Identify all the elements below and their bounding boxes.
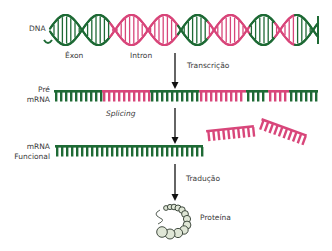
mrna-base <box>116 147 118 157</box>
pre-mrna-base <box>191 92 193 102</box>
pre-mrna-base <box>215 92 217 102</box>
intron1-base <box>207 132 210 142</box>
pre-mrna-base <box>247 92 249 102</box>
mrna-base <box>146 147 148 157</box>
transcription-label: Transcrição <box>187 62 229 70</box>
mrna-base <box>76 147 78 157</box>
intron1-base <box>247 127 250 137</box>
pre-mrna-base <box>171 92 173 102</box>
spliced-intron-2 <box>258 118 307 145</box>
pre-mrna-base <box>186 92 188 102</box>
pre-mrna-base <box>310 92 312 102</box>
mrna-base <box>136 147 138 157</box>
pre-mrna-base <box>196 92 198 102</box>
mrna-base <box>181 147 183 157</box>
pre-mrna-base <box>240 92 242 102</box>
pre-mrna-base <box>230 92 232 102</box>
pre-mrna-base <box>274 92 276 102</box>
gene-expression-diagram <box>0 0 332 251</box>
intron2-base <box>268 124 274 134</box>
pre-mrna-base <box>100 92 102 102</box>
pre-mrna-base <box>75 92 77 102</box>
pre-mrna-base <box>103 92 105 102</box>
pre-mrna-base <box>123 92 125 102</box>
intron2-base <box>301 136 307 146</box>
pre-mrna-base <box>210 92 212 102</box>
intron2-base <box>259 120 265 130</box>
intron1-base <box>237 128 240 138</box>
pre-mrna-base <box>90 92 92 102</box>
pre-mrna-base <box>95 92 97 102</box>
pre-mrna-base <box>143 92 145 102</box>
mrna-base <box>106 147 108 157</box>
pre-mrna-base <box>225 92 227 102</box>
translation-label: Tradução <box>186 175 220 183</box>
pre-mrna-base <box>262 92 264 102</box>
mrna-base <box>126 147 128 157</box>
splicing-label: Splicing <box>106 110 135 118</box>
dna-label: DNA <box>29 25 46 33</box>
exon-label: Éxon <box>65 52 83 60</box>
pre-mrna-base <box>284 92 286 102</box>
intron1-base <box>217 131 220 141</box>
pre-mrna-base <box>85 92 87 102</box>
pre-mrna-base <box>290 92 292 102</box>
mrna-base <box>166 147 168 157</box>
process-arrows <box>172 53 179 201</box>
pre-mrna-base <box>166 92 168 102</box>
mrna-base <box>131 147 133 157</box>
pre-mrna-base <box>305 92 307 102</box>
pre-mrna-base <box>128 92 130 102</box>
mrna-base <box>61 147 63 157</box>
functional-mrna-label-line1: mRNA <box>27 143 50 151</box>
mrna-base <box>191 147 193 157</box>
intron1-base <box>242 128 245 138</box>
mrna-base <box>66 147 68 157</box>
mrna-base <box>161 147 163 157</box>
pre-mrna-base <box>295 92 297 102</box>
pre-mrna-base <box>200 92 202 102</box>
intron1-base <box>222 130 225 140</box>
protein-tail <box>156 210 163 224</box>
mrna-base <box>81 147 83 157</box>
pre-mrna-base <box>156 92 158 102</box>
intron1-base <box>212 131 215 141</box>
pre-mrna-base <box>60 92 62 102</box>
pre-mrna-base <box>220 92 222 102</box>
mrna-base <box>71 147 73 157</box>
mrna-base <box>186 147 188 157</box>
pre-mrna-base <box>257 92 259 102</box>
intron1-base <box>232 129 235 139</box>
mrna-base <box>111 147 113 157</box>
protein-chain-icon <box>156 204 191 239</box>
mrna-base <box>201 147 203 157</box>
translation-arrowhead <box>172 194 179 201</box>
pre-mrna-base <box>205 92 207 102</box>
intron2-base <box>264 122 270 132</box>
pre-mrna-base <box>113 92 115 102</box>
mrna-base <box>171 147 173 157</box>
mrna-base <box>91 147 93 157</box>
pre-mrna-base <box>300 92 302 102</box>
pre-mrna-base <box>235 92 237 102</box>
pre-mrna-base <box>252 92 254 102</box>
mrna-base <box>156 147 158 157</box>
pre-mrna-base <box>80 92 82 102</box>
pre-mrna-label-line2: mRNA <box>27 96 50 104</box>
intron2-base <box>292 132 298 142</box>
intron2-base <box>278 127 284 137</box>
pre-mrna-base <box>161 92 163 102</box>
pre-mrna-base <box>55 92 57 102</box>
spliced-intron-1 <box>206 125 255 141</box>
intron2-base <box>273 125 279 135</box>
mrna-base <box>121 147 123 157</box>
intron1-base <box>227 130 230 140</box>
intron1-base <box>252 127 255 137</box>
mrna-base <box>86 147 88 157</box>
pre-mrna-base <box>151 92 153 102</box>
pre-mrna-label-line1: Pré <box>38 86 50 94</box>
spliced-introns <box>206 118 307 145</box>
mrna-base <box>151 147 153 157</box>
pre-mrna-backbone-exon <box>289 90 318 93</box>
mrna-base <box>56 147 58 157</box>
